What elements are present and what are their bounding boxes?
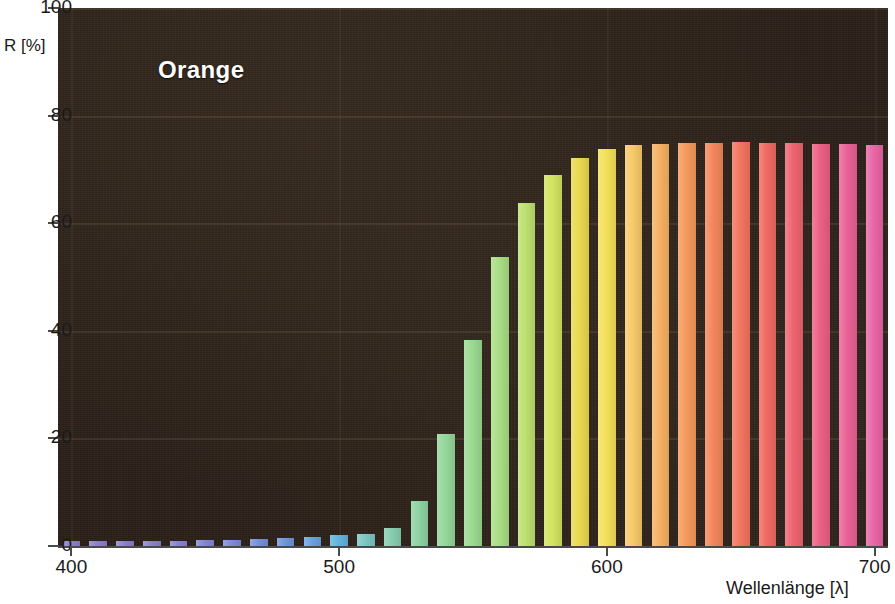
x-tick-mark xyxy=(606,546,608,556)
gridline-horizontal xyxy=(58,116,888,118)
x-tick-label: 400 xyxy=(31,556,111,578)
bar-sheen xyxy=(652,144,670,546)
bar-sheen xyxy=(544,175,562,546)
bar-sheen xyxy=(759,143,777,547)
bar xyxy=(304,537,322,546)
x-tick-mark xyxy=(874,546,876,556)
bar-sheen xyxy=(464,340,482,546)
y-tick-label: 80 xyxy=(12,104,72,126)
bar-sheen xyxy=(598,149,616,546)
bar xyxy=(785,143,803,546)
bar-sheen xyxy=(785,143,803,546)
gridline-horizontal xyxy=(58,8,888,10)
bar-sheen xyxy=(437,434,455,546)
y-tick-label: 40 xyxy=(12,319,72,341)
bar xyxy=(866,145,884,546)
bar xyxy=(437,434,455,546)
y-tick-label: 100 xyxy=(12,0,72,18)
bar-sheen xyxy=(839,144,857,546)
bar xyxy=(598,149,616,546)
bar xyxy=(384,528,402,546)
bar-sheen xyxy=(866,145,884,546)
bar xyxy=(732,142,750,546)
plot-area: Orange xyxy=(58,8,888,546)
bar-sheen xyxy=(357,534,375,546)
bar-sheen xyxy=(812,144,830,546)
x-axis-line xyxy=(58,546,888,548)
bar-sheen xyxy=(250,539,268,546)
bar-sheen xyxy=(304,537,322,546)
x-tick-label: 500 xyxy=(299,556,379,578)
gridline-vertical xyxy=(71,8,73,546)
bar xyxy=(759,143,777,547)
bar-sheen xyxy=(625,145,643,546)
gridline-vertical xyxy=(339,8,341,546)
bar xyxy=(518,203,536,546)
bar xyxy=(357,534,375,546)
bar-sheen xyxy=(491,257,509,546)
bar xyxy=(678,143,696,546)
y-tick-label: 20 xyxy=(12,426,72,448)
bar xyxy=(491,257,509,546)
bar xyxy=(571,158,589,546)
bar xyxy=(277,538,295,546)
y-axis-title: R [%] xyxy=(4,36,46,56)
bar xyxy=(839,144,857,546)
bar xyxy=(625,145,643,546)
x-tick-label: 600 xyxy=(567,556,647,578)
bar xyxy=(464,340,482,546)
bar xyxy=(544,175,562,546)
bar-sheen xyxy=(678,143,696,546)
bar xyxy=(330,535,348,546)
bar xyxy=(411,501,429,546)
y-tick-label: 0 xyxy=(12,534,72,556)
y-tick-label: 60 xyxy=(12,211,72,233)
x-tick-mark xyxy=(338,546,340,556)
bar-sheen xyxy=(732,142,750,546)
bar-sheen xyxy=(384,528,402,546)
bar-sheen xyxy=(571,158,589,546)
bar xyxy=(652,144,670,546)
x-tick-label: 700 xyxy=(835,556,895,578)
bar xyxy=(812,144,830,546)
bar-sheen xyxy=(277,538,295,546)
bar xyxy=(250,539,268,546)
bar-sheen xyxy=(705,143,723,547)
bar xyxy=(705,143,723,547)
x-tick-mark xyxy=(70,546,72,556)
bar-sheen xyxy=(518,203,536,546)
series-title: Orange xyxy=(158,56,244,84)
bar-sheen xyxy=(330,535,348,546)
x-axis-title: Wellenlänge [λ] xyxy=(726,578,849,599)
bar-sheen xyxy=(411,501,429,546)
